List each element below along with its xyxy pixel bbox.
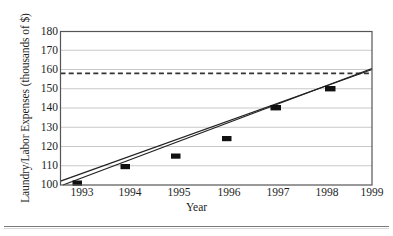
data-point-markers <box>73 86 336 186</box>
data-point-1997 <box>271 105 282 110</box>
x-tick-label: 1999 <box>349 186 393 198</box>
data-point-1998 <box>325 86 336 91</box>
x-axis-title: Year <box>0 201 393 213</box>
footer-divider-shadow <box>4 228 389 229</box>
gridlines <box>61 50 373 166</box>
x-tick-label: 1994 <box>107 186 153 198</box>
x-tick-label: 1993 <box>59 186 105 198</box>
data-point-1995 <box>171 154 181 159</box>
x-tick-label: 1998 <box>304 186 350 198</box>
chart-figure: Laundry/Labor Expenses (thousands of $) … <box>0 0 393 236</box>
x-axis-tick-labels: 1993 1994 1995 1996 1997 1998 1999 <box>0 186 393 202</box>
x-tick-label: 1995 <box>156 186 202 198</box>
data-point-1996 <box>222 136 232 141</box>
x-tick-label: 1996 <box>206 186 252 198</box>
x-tick-label: 1997 <box>255 186 301 198</box>
data-point-1994 <box>121 164 131 169</box>
footer-divider <box>4 226 389 227</box>
